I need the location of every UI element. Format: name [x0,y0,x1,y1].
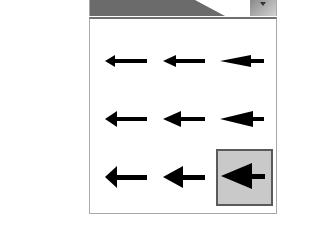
arrowhead-style-2[interactable] [158,33,215,90]
arrowhead-style-5[interactable] [158,91,215,148]
arrow-style-combobox[interactable] [89,0,277,16]
arrowhead-style-8[interactable] [158,149,215,206]
arrow-style-dropdown-panel [89,17,277,214]
arrow-left-icon [101,34,158,91]
arrowhead-style-4[interactable] [100,91,157,148]
arrow-left-icon [159,34,216,91]
arrow-left-icon [217,34,274,91]
arrowhead-preview-icon [90,0,247,16]
arrowhead-style-3[interactable] [216,33,273,90]
arrow-left-icon [217,92,274,149]
arrow-left-icon [159,92,216,149]
dropdown-button[interactable] [250,0,276,16]
arrow-left-icon [101,150,158,207]
arrowhead-style-1[interactable] [100,33,157,90]
arrowhead-style-6[interactable] [216,91,273,148]
arrowhead-style-9[interactable] [216,149,273,206]
chevron-down-icon [260,2,266,6]
arrowhead-style-7[interactable] [100,149,157,206]
current-arrow-preview[interactable] [90,0,247,16]
arrow-left-icon [159,150,216,207]
arrow-left-icon [101,92,158,149]
arrow-left-icon [218,151,271,204]
